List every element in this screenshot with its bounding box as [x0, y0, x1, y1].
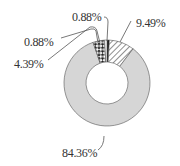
donut-slices: [64, 40, 150, 126]
leader-lines: [48, 17, 131, 150]
label-top-small-slice: 0.88%: [72, 11, 102, 23]
label-left-small-slice: 0.88%: [24, 36, 54, 48]
label-gray-slice: 84.36%: [62, 147, 97, 159]
label-checkered-slice: 4.39%: [14, 58, 44, 70]
label-hatched-slice: 9.49%: [136, 17, 166, 29]
